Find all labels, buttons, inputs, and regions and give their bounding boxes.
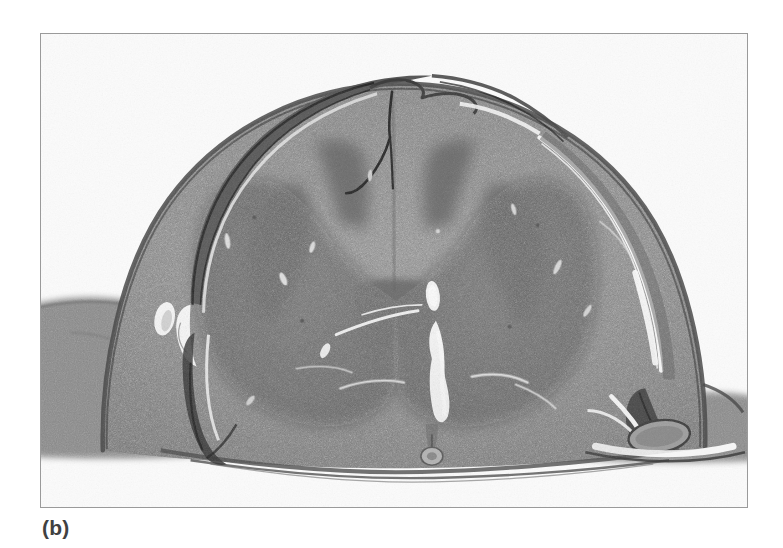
figure-caption: (b) [42, 516, 69, 540]
spinal-cord-micrograph [41, 34, 747, 507]
micrograph-plate [40, 33, 748, 508]
film-grain [41, 34, 747, 507]
figure-root: (b) [0, 0, 783, 548]
micrograph-viewport [41, 34, 747, 507]
